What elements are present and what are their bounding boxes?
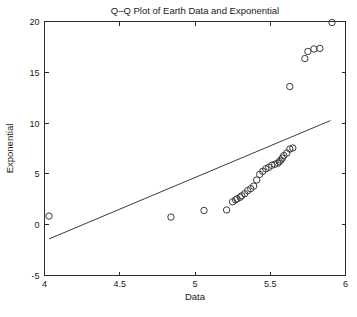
data-point xyxy=(311,46,317,52)
plot-frame xyxy=(45,22,346,276)
data-points-group xyxy=(46,19,335,220)
y-tick-label-2: 5 xyxy=(34,169,39,179)
y-tick-label-5: 20 xyxy=(29,17,39,27)
y-tick-label-0: -5 xyxy=(31,271,39,281)
axes-group xyxy=(45,22,346,276)
reference-line xyxy=(49,121,330,239)
ticks-group xyxy=(45,22,346,276)
data-point xyxy=(305,48,311,54)
data-point xyxy=(223,207,229,213)
y-tick-label-1: 0 xyxy=(34,220,39,230)
y-tick-label-3: 10 xyxy=(29,119,39,129)
tick-labels-group: 44.555.56-505101520 xyxy=(29,17,348,289)
x-tick-label-2: 5 xyxy=(192,279,197,289)
data-point xyxy=(46,213,52,219)
data-point xyxy=(317,45,323,51)
data-point xyxy=(287,83,293,89)
y-tick-label-4: 15 xyxy=(29,68,39,78)
data-point xyxy=(168,214,174,220)
y-axis-title: Exponential xyxy=(4,124,15,174)
data-point xyxy=(201,207,207,213)
chart-title-group: Q–Q Plot of Earth Data and Exponential xyxy=(111,5,279,16)
x-tick-label-3: 5.5 xyxy=(264,279,277,289)
data-point xyxy=(302,55,308,61)
reference-line-group xyxy=(49,121,330,239)
qq-plot: Q–Q Plot of Earth Data and Exponential 4… xyxy=(0,0,357,317)
x-tick-label-0: 4 xyxy=(42,279,47,289)
x-tick-label-4: 6 xyxy=(343,279,348,289)
x-axis-title: Data xyxy=(185,291,206,302)
x-tick-label-1: 4.5 xyxy=(113,279,126,289)
data-point xyxy=(329,19,335,25)
chart-title: Q–Q Plot of Earth Data and Exponential xyxy=(111,5,279,16)
chart-page: Q–Q Plot of Earth Data and Exponential 4… xyxy=(0,0,357,317)
